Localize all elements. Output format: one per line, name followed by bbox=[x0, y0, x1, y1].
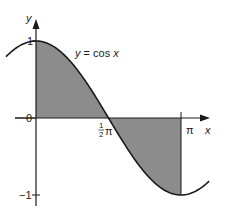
y-tick-label-neg1: −1 bbox=[19, 189, 32, 201]
x-tick-half-numerator: 1 bbox=[99, 121, 104, 130]
y-axis-arrow-icon bbox=[33, 19, 40, 29]
curve-label-eq: = cos bbox=[81, 47, 114, 59]
y-tick-label-0: 0 bbox=[26, 112, 32, 124]
x-tick-half-denominator: 2 bbox=[99, 130, 104, 139]
x-tick-label-pi: π bbox=[186, 124, 194, 136]
y-tick-label-1: 1 bbox=[27, 35, 33, 47]
curve-label-x: x bbox=[112, 47, 119, 59]
cosine-area-chart: y x 1 0 −1 1 2 π π y = cos x bbox=[0, 0, 230, 214]
x-axis-label: x bbox=[204, 124, 211, 136]
x-axis-arrow-icon bbox=[200, 115, 210, 122]
y-axis-label: y bbox=[25, 12, 33, 24]
x-tick-half-pi: π bbox=[105, 125, 113, 137]
curve-label: y = cos x bbox=[74, 47, 119, 59]
chart-canvas: y x 1 0 −1 1 2 π π y = cos x bbox=[0, 0, 230, 214]
